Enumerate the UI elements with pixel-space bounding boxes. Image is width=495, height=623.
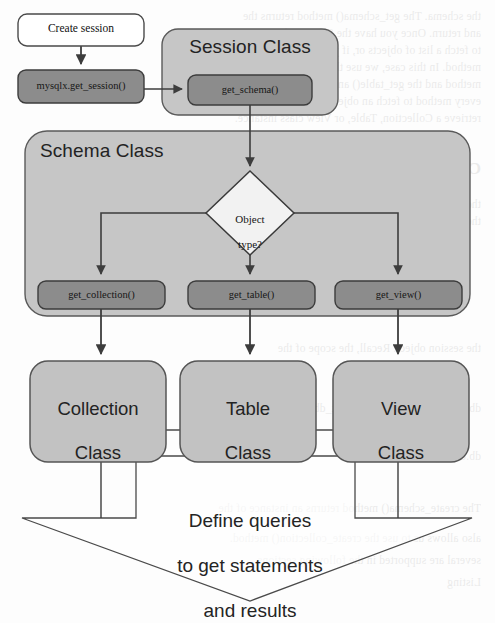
view-class-box[interactable]: [333, 361, 469, 462]
diagram-page: the schema. The get_schema() method retu…: [0, 0, 495, 623]
get-schema-box[interactable]: [188, 75, 312, 105]
big-arrow-define-queries[interactable]: [22, 456, 472, 601]
view-class-shape: [333, 361, 469, 462]
get-table-shape: [188, 281, 315, 309]
get-collection-shape: [38, 281, 165, 309]
get-view-box[interactable]: [335, 281, 462, 309]
collection-class-box[interactable]: [30, 361, 166, 462]
get-collection-box[interactable]: [38, 281, 165, 309]
mysqlx-get-session-box[interactable]: [18, 70, 144, 103]
get-schema-shape: [188, 75, 312, 105]
get-table-box[interactable]: [188, 281, 315, 309]
create-session-shape: [18, 14, 144, 46]
mysqlx-get-session-shape: [18, 70, 144, 103]
table-class-box[interactable]: [180, 361, 316, 462]
create-session-box[interactable]: [18, 14, 144, 46]
diagram-canvas: [0, 0, 495, 623]
collection-class-shape: [30, 361, 166, 462]
table-class-shape: [180, 361, 316, 462]
get-view-shape: [335, 281, 462, 309]
big-arrow-shape: [22, 456, 472, 601]
